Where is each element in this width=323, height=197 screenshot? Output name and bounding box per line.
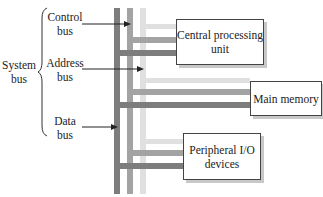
- system-bus-label: System bus: [0, 58, 38, 86]
- cpu-control-branch: [133, 37, 176, 43]
- cpu-data-branch: [120, 50, 176, 56]
- io-data-branch: [120, 163, 186, 169]
- address-bus-label: Address bus: [45, 56, 85, 84]
- main-memory-box: Main memory: [250, 81, 322, 116]
- control-bus-label: Control bus: [45, 10, 85, 38]
- data-bus-line: [114, 8, 120, 194]
- data-bus-label: Data bus: [45, 114, 85, 142]
- memory-address-branch: [146, 78, 250, 83]
- memory-data-branch: [120, 102, 250, 108]
- cpu-box: Central processing unit: [176, 19, 264, 65]
- io-control-branch: [133, 150, 186, 156]
- memory-control-branch: [133, 89, 250, 95]
- io-box: Peripheral I/O devices: [183, 133, 261, 180]
- io-address-branch: [146, 139, 186, 144]
- cpu-address-branch: [146, 24, 176, 29]
